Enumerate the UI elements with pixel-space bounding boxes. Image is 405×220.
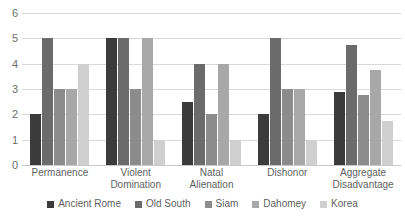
bar (258, 114, 269, 165)
y-axis-tick-1: 1 (0, 134, 18, 145)
bar (130, 89, 141, 165)
legend-swatch-icon (320, 201, 327, 208)
bar-group (325, 13, 401, 165)
bar (42, 38, 53, 165)
legend-swatch-icon (47, 201, 54, 208)
x-axis-label-line: Domination (98, 179, 174, 191)
bar-group (249, 13, 325, 165)
bar (358, 95, 369, 165)
bar (306, 140, 317, 165)
y-axis-tick-4: 4 (0, 58, 18, 69)
y-axis-tick-2: 2 (0, 109, 18, 120)
legend-swatch-icon (135, 201, 142, 208)
bar (334, 92, 345, 165)
bar-group (98, 13, 174, 165)
x-axis-label-line: Permanence (22, 167, 98, 179)
x-axis-label-line: Aggregate (325, 167, 401, 179)
legend-label: Dahomey (263, 199, 306, 209)
bar (106, 38, 117, 165)
legend-item[interactable]: Siam (205, 199, 239, 209)
bar (194, 64, 205, 165)
x-axis-label-line: Violent (98, 167, 174, 179)
x-axis-label: ViolentDomination (98, 167, 174, 190)
x-axis-labels: PermanenceViolentDominationNatalAlienati… (22, 167, 401, 190)
legend-item[interactable]: Korea (320, 199, 358, 209)
legend-swatch-icon (205, 201, 212, 208)
bar (182, 102, 193, 165)
bar (118, 38, 129, 165)
bar (206, 114, 217, 165)
bar (218, 64, 229, 165)
bar (370, 70, 381, 165)
y-axis-tick-0: 0 (0, 160, 18, 171)
bar (142, 38, 153, 165)
y-axis-tick-3: 3 (0, 84, 18, 95)
bar (30, 114, 41, 165)
x-axis-label: Permanence (22, 167, 98, 190)
x-axis-label: Dishonor (249, 167, 325, 190)
legend-item[interactable]: Dahomey (252, 199, 306, 209)
bar (54, 89, 65, 165)
bar (154, 140, 165, 165)
bar (282, 89, 293, 165)
legend-label: Siam (216, 199, 239, 209)
bar-chart: 0123456 PermanenceViolentDominationNatal… (0, 0, 405, 220)
legend-label: Old South (146, 199, 190, 209)
legend-item[interactable]: Ancient Rome (47, 199, 121, 209)
gridline-0 (22, 165, 401, 166)
legend-swatch-icon (252, 201, 259, 208)
legend-label: Korea (331, 199, 358, 209)
y-axis-tick-5: 5 (0, 33, 18, 44)
bar (230, 140, 241, 165)
y-axis-tick-6: 6 (0, 8, 18, 19)
x-axis-label-line: Dishonor (249, 167, 325, 179)
bar (270, 38, 281, 165)
bar (294, 89, 305, 165)
x-axis-label: NatalAlienation (174, 167, 250, 190)
legend-item[interactable]: Old South (135, 199, 190, 209)
chart-legend: Ancient RomeOld SouthSiamDahomeyKorea (0, 199, 405, 209)
bar (78, 64, 89, 165)
x-axis-label-line: Alienation (174, 179, 250, 191)
bar (66, 89, 77, 165)
x-axis-label: AggregateDisadvantage (325, 167, 401, 190)
bar-groups (22, 13, 401, 165)
x-axis-label-line: Natal (174, 167, 250, 179)
plot-area (22, 13, 401, 165)
bar-group (22, 13, 98, 165)
bar-group (174, 13, 250, 165)
x-axis-label-line: Disadvantage (325, 179, 401, 191)
bar (382, 121, 393, 165)
legend-label: Ancient Rome (58, 199, 121, 209)
bar (346, 45, 357, 165)
